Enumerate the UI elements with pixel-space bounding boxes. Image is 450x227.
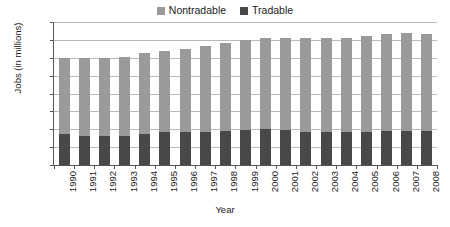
plot-area: 020406080100120140160 <box>54 22 437 165</box>
bar-segment-tradable[interactable] <box>119 136 130 165</box>
bar-segment-nontradable[interactable] <box>341 38 352 132</box>
bar-segment-tradable[interactable] <box>139 134 150 165</box>
bar-segment-tradable[interactable] <box>321 132 332 165</box>
bar-segment-nontradable[interactable] <box>180 49 191 132</box>
bar-column[interactable] <box>220 43 231 165</box>
bar-segment-nontradable[interactable] <box>260 38 271 129</box>
bar-column[interactable] <box>119 57 130 165</box>
x-tick-mark <box>397 165 398 169</box>
x-tick-label-2003: 2003 <box>330 171 340 201</box>
bar-column[interactable] <box>341 38 352 165</box>
x-tick-label-2007: 2007 <box>411 171 421 201</box>
bar-segment-nontradable[interactable] <box>321 38 332 132</box>
bar-segment-nontradable[interactable] <box>119 57 130 136</box>
y-axis-title: Jobs (in millions) <box>12 0 24 118</box>
bar-segment-nontradable[interactable] <box>99 58 110 136</box>
bar-column[interactable] <box>401 33 412 165</box>
x-tick-label-1999: 1999 <box>250 171 260 201</box>
bar-segment-nontradable[interactable] <box>421 34 432 131</box>
bar-column[interactable] <box>200 46 211 165</box>
bar-column[interactable] <box>381 34 392 165</box>
bar-segment-tradable[interactable] <box>99 136 110 165</box>
bar-segment-tradable[interactable] <box>361 132 372 165</box>
bar-column[interactable] <box>260 38 271 165</box>
x-tick-mark <box>417 165 418 169</box>
x-tick-label-1990: 1990 <box>68 171 78 201</box>
nontradable-swatch <box>157 7 165 15</box>
x-tick-label-1998: 1998 <box>229 171 239 201</box>
bar-segment-tradable[interactable] <box>341 132 352 165</box>
bar-column[interactable] <box>159 51 170 165</box>
x-tick-mark <box>114 165 115 169</box>
chart-legend: Nontradable Tradable <box>0 3 450 18</box>
x-tick-label-2006: 2006 <box>391 171 401 201</box>
x-tick-mark <box>94 165 95 169</box>
stacked-bar-chart: Nontradable Tradable Jobs (in millions) … <box>0 0 450 227</box>
bar-column[interactable] <box>361 36 372 165</box>
x-tick-mark <box>356 165 357 169</box>
x-tick-mark <box>215 165 216 169</box>
bar-column[interactable] <box>180 49 191 165</box>
bar-segment-tradable[interactable] <box>59 134 70 165</box>
bar-segment-tradable[interactable] <box>180 132 191 165</box>
bar-column[interactable] <box>240 40 251 165</box>
x-tick-mark <box>256 165 257 169</box>
legend-label-nontradable: Nontradable <box>169 5 226 16</box>
x-tick-label-2001: 2001 <box>290 171 300 201</box>
bar-segment-tradable[interactable] <box>300 132 311 165</box>
bar-segment-tradable[interactable] <box>381 131 392 165</box>
bar-column[interactable] <box>280 38 291 165</box>
bar-column[interactable] <box>300 38 311 165</box>
bar-segment-nontradable[interactable] <box>59 58 70 134</box>
bar-segment-tradable[interactable] <box>421 131 432 165</box>
bar-column[interactable] <box>421 34 432 165</box>
x-tick-mark <box>437 165 438 169</box>
bar-segment-tradable[interactable] <box>79 136 90 165</box>
x-tick-labels: 1990199119921993199419951996199719981999… <box>54 171 437 203</box>
x-axis-title: Year <box>0 204 450 215</box>
bar-segment-tradable[interactable] <box>159 132 170 165</box>
x-tick-mark <box>316 165 317 169</box>
bar-segment-tradable[interactable] <box>260 129 271 165</box>
bar-segment-tradable[interactable] <box>401 131 412 165</box>
legend-label-tradable: Tradable <box>252 5 293 16</box>
x-tick-mark <box>54 165 55 169</box>
x-tick-mark <box>74 165 75 169</box>
bar-column[interactable] <box>99 58 110 165</box>
x-tick-mark <box>296 165 297 169</box>
x-tick-label-2002: 2002 <box>310 171 320 201</box>
x-tick-label-1991: 1991 <box>88 171 98 201</box>
x-tick-mark <box>235 165 236 169</box>
bar-segment-nontradable[interactable] <box>220 43 231 131</box>
bar-segment-nontradable[interactable] <box>401 33 412 131</box>
bar-segment-nontradable[interactable] <box>381 34 392 131</box>
bar-segment-tradable[interactable] <box>280 130 291 165</box>
x-tick-mark <box>276 165 277 169</box>
bar-segment-nontradable[interactable] <box>280 38 291 130</box>
legend-item-tradable[interactable]: Tradable <box>240 5 293 16</box>
bar-column[interactable] <box>321 38 332 165</box>
tradable-swatch <box>240 7 248 15</box>
x-tick-mark <box>377 165 378 169</box>
bar-segment-tradable[interactable] <box>200 132 211 165</box>
x-tick-label-2008: 2008 <box>431 171 441 201</box>
bar-segment-nontradable[interactable] <box>139 53 150 133</box>
bar-segment-nontradable[interactable] <box>159 51 170 132</box>
bar-column[interactable] <box>79 58 90 165</box>
x-tick-label-1992: 1992 <box>108 171 118 201</box>
x-tick-label-1997: 1997 <box>209 171 219 201</box>
bar-segment-nontradable[interactable] <box>361 36 372 132</box>
bar-segment-nontradable[interactable] <box>300 38 311 132</box>
x-tick-mark <box>155 165 156 169</box>
bar-column[interactable] <box>59 58 70 165</box>
legend-item-nontradable[interactable]: Nontradable <box>157 5 226 16</box>
x-tick-label-2000: 2000 <box>270 171 280 201</box>
bar-segment-tradable[interactable] <box>240 130 251 165</box>
bar-segment-nontradable[interactable] <box>240 40 251 130</box>
bar-segment-tradable[interactable] <box>220 131 231 165</box>
x-tick-mark <box>195 165 196 169</box>
bar-column[interactable] <box>139 53 150 165</box>
bar-segment-nontradable[interactable] <box>200 46 211 132</box>
x-tick-mark <box>175 165 176 169</box>
bar-segment-nontradable[interactable] <box>79 58 90 136</box>
